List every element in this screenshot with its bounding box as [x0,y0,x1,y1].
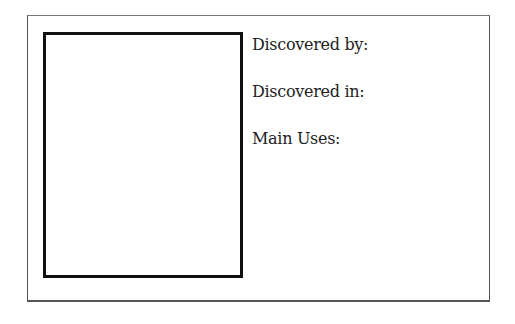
field-list: Discovered by: Discovered in: Main Uses: [252,30,368,171]
main-uses-label: Main Uses: [252,124,368,171]
discovered-in-label: Discovered in: [252,77,368,124]
image-placeholder-frame [43,32,243,278]
discovered-by-label: Discovered by: [252,30,368,77]
